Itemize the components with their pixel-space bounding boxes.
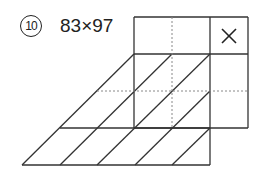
lattice-multiplication-grid [0, 0, 260, 178]
multiply-symbol-icon [222, 29, 236, 43]
